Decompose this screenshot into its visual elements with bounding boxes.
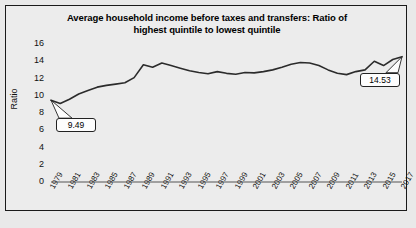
chart-frame: Average household income before taxes an… (5, 5, 407, 211)
data-series-line (51, 57, 402, 104)
callout-max-value: 14.53 (360, 73, 400, 87)
plot-area (6, 6, 408, 212)
callout-min-value: 9.49 (56, 118, 96, 132)
